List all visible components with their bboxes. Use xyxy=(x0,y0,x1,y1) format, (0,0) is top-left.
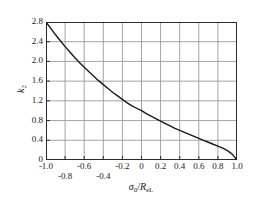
x-tick-label: 0.8 xyxy=(212,162,223,171)
x-tick-label: -0.6 xyxy=(77,162,91,171)
x-tick-label: 0.2 xyxy=(155,162,166,171)
y-axis-k-symbol: k xyxy=(15,88,26,92)
y-axis-title: k2 xyxy=(16,82,26,96)
x-tick-label: -0.8 xyxy=(58,172,72,181)
x-tick-label: 1.0 xyxy=(231,162,242,171)
x-axis-sigma-subscript: 0 xyxy=(134,186,137,193)
x-tick-label: 0.6 xyxy=(193,162,204,171)
x-tick-label: 0.4 xyxy=(174,162,185,171)
chart-figure: 00.40.81.21.62.02.42.8 -1.0-0.8-0.6-0.4-… xyxy=(0,0,263,205)
x-axis-tick-labels: -1.0-0.8-0.6-0.4-0.200.20.40.60.81.0 xyxy=(0,0,263,205)
y-axis-k-subscript: 2 xyxy=(20,85,27,88)
x-tick-label: -1.0 xyxy=(39,162,53,171)
x-tick-label: 0 xyxy=(139,162,144,171)
x-axis-title: σ0/ReL xyxy=(129,182,153,192)
x-axis-R-subscript: eL xyxy=(146,186,153,193)
x-tick-label: -0.2 xyxy=(115,162,129,171)
x-tick-label: -0.4 xyxy=(96,172,110,181)
